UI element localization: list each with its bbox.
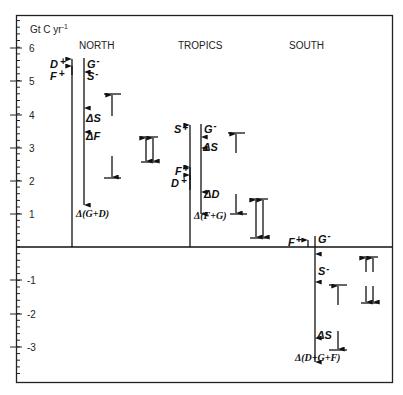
y-tick-label: 5 xyxy=(29,76,35,87)
south-label-delta-S: ΔS xyxy=(316,329,332,341)
tropics-label-delta-S: ΔS xyxy=(202,141,218,153)
y-axis-unit-label: Gt C yr-1 xyxy=(30,23,68,35)
south-label-F: F+ xyxy=(288,234,302,248)
south-group xyxy=(308,236,378,362)
region-title-south: SOUTH xyxy=(289,40,324,51)
north-label-F: F+ xyxy=(50,68,65,82)
north-label-end: Δ(G+D) xyxy=(75,208,109,220)
y-tick-labels: 6 5 4 3 2 1 -1 -2 -3 xyxy=(27,43,36,353)
tropics-label-end: Δ(F+G) xyxy=(193,210,227,222)
y-tick-label: -2 xyxy=(27,309,36,320)
north-label-delta-F: ΔF xyxy=(85,130,100,142)
tropics-group xyxy=(190,124,268,247)
south-label-G: G- xyxy=(318,231,331,245)
region-title-north: NORTH xyxy=(79,40,114,51)
north-label-delta-S: ΔS xyxy=(85,112,101,124)
tropics-label-D: D+ xyxy=(171,175,187,189)
north-label-S: S- xyxy=(87,69,98,82)
region-title-tropics: TROPICS xyxy=(178,40,223,51)
y-tick-label: -1 xyxy=(27,275,36,286)
y-tick-label: 4 xyxy=(29,110,35,121)
tropics-label-S: S+ xyxy=(174,122,188,135)
y-tick-label: 3 xyxy=(29,143,35,154)
y-tick-label: -3 xyxy=(27,342,36,353)
y-tick-label: 1 xyxy=(29,209,35,220)
south-label-end: Δ(D+G+F) xyxy=(294,352,340,364)
carbon-flux-chart: 6 5 4 3 2 1 -1 -2 -3 Gt C yr-1 NORTH TRO… xyxy=(0,0,403,395)
tropics-label-G: G- xyxy=(204,121,217,135)
y-tick-label: 2 xyxy=(29,176,35,187)
south-label-S: S- xyxy=(318,264,329,277)
y-tick-label: 6 xyxy=(29,43,35,54)
tropics-label-delta-D: ΔD xyxy=(203,188,219,200)
north-label-G: G- xyxy=(87,56,100,70)
